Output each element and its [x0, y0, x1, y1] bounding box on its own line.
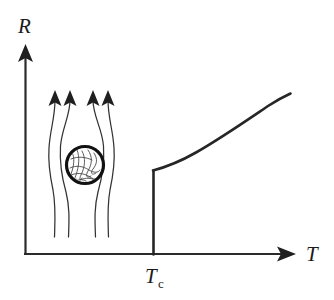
field-line-1 [49, 100, 55, 237]
figure-root: R T T c [0, 0, 334, 300]
x-axis-label: T [306, 242, 319, 266]
meissner-inset-group [49, 90, 115, 237]
tc-label-subscript: c [158, 276, 164, 291]
field-line-4 [108, 100, 114, 237]
resistance-curve-group [153, 94, 291, 255]
tc-tick-label: T c [145, 264, 164, 291]
y-axis-label: R [17, 14, 31, 38]
tc-label-main: T [145, 264, 158, 288]
rt-diagram-svg: R T T c [0, 0, 334, 300]
resistance-normal-branch [153, 94, 291, 171]
